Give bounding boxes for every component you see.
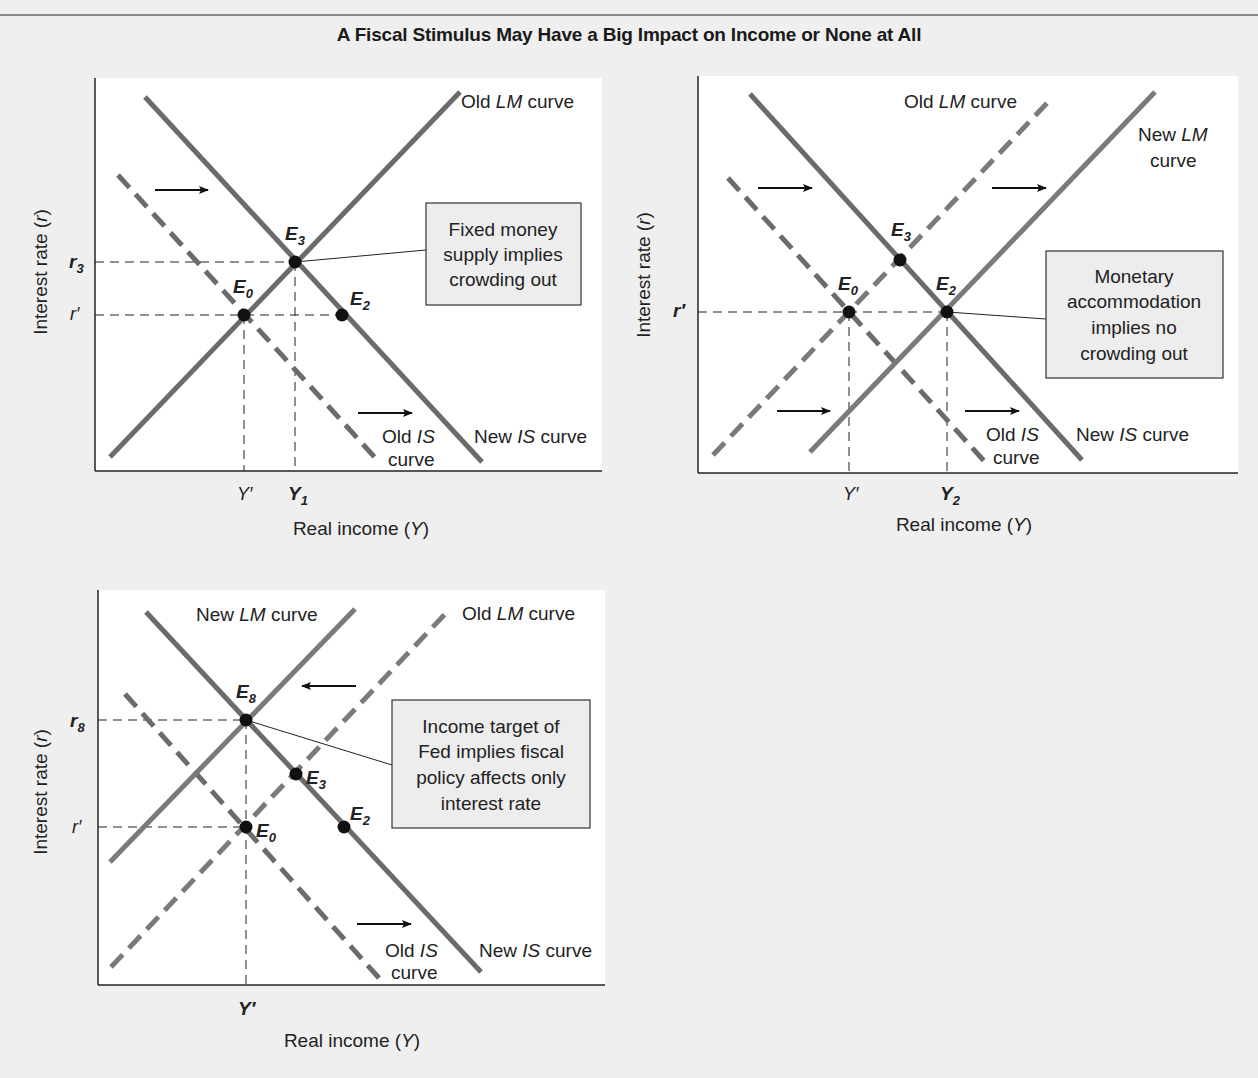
label-old-lm: Old LM curve [462, 603, 575, 624]
label-old-is-2: curve [391, 962, 437, 983]
label-new-is: New IS curve [1076, 424, 1189, 445]
x-axis-label: Real income (Y) [284, 1030, 420, 1051]
note-line: crowding out [449, 269, 557, 290]
panel-monetary-accommodation: Monetary accommodation implies no crowdi… [633, 76, 1238, 535]
tick-r8: r8 [70, 710, 85, 735]
tick-r3: r3 [69, 251, 84, 276]
label-old-is-2: curve [388, 449, 434, 470]
note-line: policy affects only [416, 767, 566, 788]
point-e3 [894, 254, 907, 267]
tick-rprime: r′ [72, 817, 82, 837]
panel-income-target: Income target of Fed implies fiscal poli… [30, 590, 605, 1051]
y-axis-label: Interest rate (r) [30, 209, 51, 335]
note-line: crowding out [1080, 343, 1188, 364]
tick-rprime: r′ [70, 304, 80, 324]
label-old-lm: Old LM curve [904, 91, 1017, 112]
point-e0 [240, 821, 253, 834]
figure-canvas: Fixed money supply implies crowding out … [0, 0, 1258, 1078]
panel-crowding-out: Fixed money supply implies crowding out … [30, 78, 602, 539]
label-old-is: Old IS [382, 426, 435, 447]
label-old-is-2: curve [993, 447, 1039, 468]
tick-yprime: Y′ [238, 998, 257, 1019]
note-line: accommodation [1067, 291, 1201, 312]
tick-yprime: Y′ [843, 484, 859, 504]
note-line: Fed implies fiscal [418, 741, 564, 762]
point-e2 [338, 821, 351, 834]
label-old-lm: Old LM curve [461, 91, 574, 112]
label-new-lm-2: curve [1150, 150, 1196, 171]
label-old-is: Old IS [986, 424, 1039, 445]
note-line: Fixed money [449, 219, 558, 240]
point-e2 [941, 306, 954, 319]
tick-y1: Y1 [288, 483, 308, 508]
x-axis-label: Real income (Y) [293, 518, 429, 539]
point-e3 [289, 256, 302, 269]
note-line: supply implies [443, 244, 562, 265]
note-line: Monetary [1094, 266, 1174, 287]
tick-y2: Y2 [940, 483, 961, 508]
label-new-is: New IS curve [474, 426, 587, 447]
point-e3 [290, 768, 303, 781]
y-axis-label: Interest rate (r) [633, 212, 654, 338]
note-line: interest rate [441, 793, 541, 814]
point-e0 [238, 309, 251, 322]
tick-rprime: r′ [673, 300, 686, 321]
x-axis-label: Real income (Y) [896, 514, 1032, 535]
tick-yprime: Y′ [237, 484, 253, 504]
label-new-is: New IS curve [479, 940, 592, 961]
note-line: Income target of [422, 716, 560, 737]
y-axis-label: Interest rate (r) [30, 729, 51, 855]
label-new-lm: New LM curve [196, 604, 317, 625]
label-new-lm: New LM [1138, 124, 1208, 145]
note-line: implies no [1091, 317, 1177, 338]
point-e2 [336, 309, 349, 322]
point-e0 [843, 306, 856, 319]
point-e8 [240, 714, 253, 727]
label-old-is: Old IS [385, 940, 438, 961]
